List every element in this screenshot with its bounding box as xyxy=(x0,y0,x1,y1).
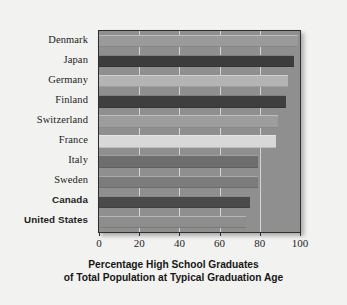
bar-row xyxy=(99,155,300,167)
bar-series xyxy=(99,31,300,232)
x-tick-mark xyxy=(99,233,100,236)
x-tick-label: 40 xyxy=(174,237,185,249)
bar-chart-figure: DenmarkJapanGermanyFinlandSwitzerlandFra… xyxy=(0,0,347,305)
category-label: Denmark xyxy=(48,34,88,45)
x-tick-mark xyxy=(179,233,180,236)
bar-row xyxy=(99,216,300,228)
category-label: Japan xyxy=(64,54,88,65)
x-axis-title-line-1: Percentage High School Graduates xyxy=(0,258,347,271)
x-tick-label: 20 xyxy=(134,237,145,249)
x-tick-label: 100 xyxy=(292,237,309,249)
bar-row xyxy=(99,135,300,147)
bar xyxy=(99,55,294,67)
category-label: Germany xyxy=(48,74,88,85)
bar xyxy=(99,75,288,87)
x-tick-label: 60 xyxy=(214,237,225,249)
bar xyxy=(99,176,258,188)
bar-row xyxy=(99,95,300,107)
bar-row xyxy=(99,35,300,47)
category-label: Sweden xyxy=(54,174,88,185)
bar-row xyxy=(99,75,300,87)
category-label: France xyxy=(59,134,88,145)
category-axis-labels: DenmarkJapanGermanyFinlandSwitzerlandFra… xyxy=(0,30,93,233)
bar xyxy=(99,196,250,208)
bar xyxy=(99,135,276,147)
category-label: Italy xyxy=(68,154,88,165)
x-tick-mark xyxy=(139,233,140,236)
plot-area xyxy=(98,30,301,233)
x-tick-mark xyxy=(220,233,221,236)
category-label: Finland xyxy=(55,94,88,105)
x-axis-title-line-2: of Total Population at Typical Graduatio… xyxy=(0,271,347,284)
bar xyxy=(99,95,286,107)
x-tick-mark xyxy=(300,233,301,236)
bar-row xyxy=(99,196,300,208)
bar xyxy=(99,216,246,228)
x-tick-label: 0 xyxy=(96,237,102,249)
x-axis-title: Percentage High School Graduates of Tota… xyxy=(0,258,347,284)
bar xyxy=(99,115,278,127)
bar-row xyxy=(99,115,300,127)
category-label: Canada xyxy=(52,194,88,205)
bar xyxy=(99,155,258,167)
x-tick-mark xyxy=(260,233,261,236)
category-label: United States xyxy=(24,214,88,225)
x-axis: 020406080100 xyxy=(98,233,301,253)
bar-row xyxy=(99,176,300,188)
category-label: Switzerland xyxy=(37,114,88,125)
x-tick-label: 80 xyxy=(254,237,265,249)
bar xyxy=(99,35,298,47)
bar-row xyxy=(99,55,300,67)
